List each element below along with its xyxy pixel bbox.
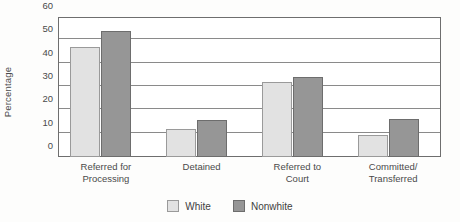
x-label-2: Referred toCourt [250, 161, 346, 185]
y-tick-label-0: 0 [7, 140, 53, 151]
gridline-30 [59, 85, 440, 86]
x-label-1: Detained [154, 161, 250, 173]
y-tick-label-40: 40 [7, 47, 53, 58]
x-label-line2: Court [250, 173, 346, 185]
x-label-line2: Processing [58, 173, 154, 185]
nonwhite-swatch [233, 200, 245, 212]
y-tick-label-50: 50 [7, 23, 53, 34]
y-tick-label-60: 60 [7, 0, 53, 11]
x-label-0: Referred forProcessing [58, 161, 154, 185]
y-tick-label-30: 30 [7, 70, 53, 81]
plot-area [58, 17, 441, 157]
white-swatch [167, 200, 179, 212]
legend-label: Nonwhite [251, 201, 293, 212]
x-label-line1: Referred to [274, 161, 322, 172]
x-label-line1: Referred for [81, 161, 132, 172]
x-axis-category-labels: Referred forProcessingDetainedReferred t… [58, 161, 441, 193]
y-axis-tick-labels: 0102030405060 [0, 17, 53, 157]
y-tick-label-20: 20 [7, 93, 53, 104]
gridline-10 [59, 132, 440, 133]
legend-item-white[interactable]: White [167, 200, 211, 212]
gridline-50 [59, 38, 440, 39]
x-label-line1: Committed/ [369, 161, 418, 172]
legend-item-nonwhite[interactable]: Nonwhite [233, 200, 293, 212]
x-label-line1: Detained [183, 161, 221, 172]
bar-chart: Percentage 0102030405060 Referred forPro… [0, 0, 460, 222]
y-tick-label-10: 10 [7, 117, 53, 128]
chart-legend: WhiteNonwhite [0, 196, 460, 216]
gridline-20 [59, 108, 440, 109]
x-label-line2: Transferred [345, 173, 441, 185]
x-label-3: Committed/Transferred [345, 161, 441, 185]
legend-label: White [185, 201, 211, 212]
gridline-40 [59, 62, 440, 63]
